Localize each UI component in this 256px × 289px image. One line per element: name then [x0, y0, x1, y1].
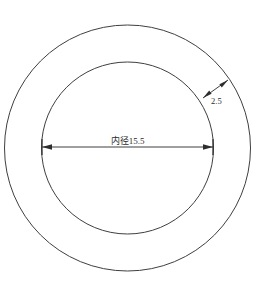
technical-drawing-canvas: 内径15.5 2.5 — [0, 0, 256, 289]
inner-diameter-dimension: 内径15.5 — [42, 135, 213, 155]
inner-diameter-left-arrowhead — [42, 144, 52, 150]
wall-thickness-label: 2.5 — [211, 96, 222, 106]
wall-thickness-dimension: 2.5 — [203, 80, 228, 106]
inner-diameter-label: 内径15.5 — [111, 135, 145, 146]
inner-circle — [42, 62, 214, 234]
inner-diameter-right-arrowhead — [203, 144, 213, 150]
wall-thickness-outer-arrowhead — [219, 80, 228, 88]
